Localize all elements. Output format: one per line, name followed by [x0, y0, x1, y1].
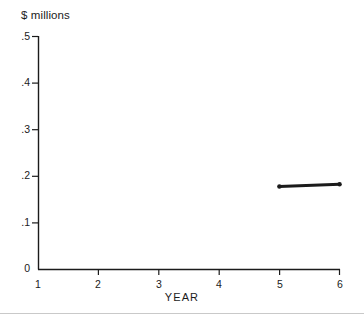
y-tick-label-3: .3 [8, 123, 30, 135]
chart-figure: $ millions .5 .4 .3 .2 .1 0 1 2 3 4 5 6 … [0, 0, 364, 321]
y-tick-label-0: 0 [8, 262, 30, 274]
y-tick-label-4: .4 [8, 76, 30, 88]
x-tick-label-2: 2 [88, 278, 108, 290]
y-tick-label-5: .5 [8, 30, 30, 42]
x-axis-title: YEAR [0, 291, 364, 303]
data-series-line [277, 182, 342, 189]
chart-plot-area [0, 0, 364, 321]
y-axis-unit-label: $ millions [21, 9, 70, 21]
x-tick-label-4: 4 [209, 278, 229, 290]
x-tick-label-6: 6 [330, 278, 350, 290]
x-tick-label-5: 5 [270, 278, 290, 290]
x-tick-label-3: 3 [149, 278, 169, 290]
y-tick-label-1: .1 [8, 216, 30, 228]
x-tick-label-1: 1 [28, 278, 48, 290]
footer-divider [0, 313, 364, 314]
y-axis-ticks [32, 37, 38, 223]
data-point-marker [277, 184, 281, 188]
y-tick-label-2: .2 [8, 169, 30, 181]
data-point-marker [337, 182, 341, 186]
